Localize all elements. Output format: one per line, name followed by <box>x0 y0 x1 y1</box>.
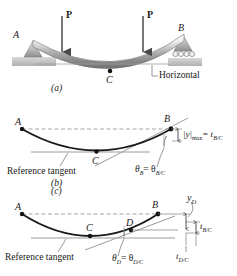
label-point-b-panel-a: B <box>178 22 184 33</box>
tdc-subscript: D/C <box>179 257 189 263</box>
ymax-eq-subscript: B/C <box>213 135 222 141</box>
ymax-subscript: max <box>192 135 202 141</box>
theta-b-equals: = θ <box>143 164 155 174</box>
label-load-p-left: P <box>66 9 72 20</box>
elastic-curve-b <box>22 129 171 151</box>
label-yd: yD <box>187 192 196 205</box>
label-horizontal: Horizontal <box>159 70 200 80</box>
yd-subscript: D <box>191 198 196 205</box>
point-c-marker-b <box>94 149 98 153</box>
roller-wheels <box>173 51 195 56</box>
label-point-b-panel-c: B <box>152 199 158 210</box>
reference-tangent-leader-c <box>58 239 66 252</box>
theta-d-equals: = θ <box>121 253 133 263</box>
panel-a-graphic <box>12 16 202 76</box>
caption-panel-c: (c) <box>51 186 62 196</box>
point-a-marker-c <box>20 212 24 216</box>
label-point-a-panel-a: A <box>13 29 19 40</box>
point-c-marker-a <box>108 69 113 74</box>
label-load-p-right: P <box>147 9 153 20</box>
label-tbc: tB/C <box>200 221 212 233</box>
panel-b-graphic <box>20 118 188 167</box>
ymax-symbol: |y| <box>183 129 192 139</box>
label-point-c-panel-a: C <box>106 74 113 85</box>
label-point-b-panel-b: B <box>164 113 170 124</box>
tbc-subscript: B/C <box>203 227 212 233</box>
label-reference-tangent-b: Reference tangent <box>7 166 76 176</box>
label-theta-b-equation: θB= θB/C <box>135 164 165 176</box>
label-point-c-panel-b: C <box>92 155 99 166</box>
label-theta-d-equation: θD= θD/C <box>112 253 143 265</box>
point-c-marker-c <box>88 234 92 238</box>
ymax-equals: = t <box>202 129 213 139</box>
theta-b-eq-subscript: B/C <box>156 170 165 176</box>
horizontal-leader <box>152 65 158 76</box>
reference-tangent-leader-b <box>60 153 68 166</box>
theta-d-eq-subscript: D/C <box>133 259 143 265</box>
label-point-a-panel-c: A <box>15 201 21 212</box>
label-point-c-panel-c: C <box>86 222 93 233</box>
label-tdc: tD/C <box>176 251 189 263</box>
label-point-a-panel-b: A <box>15 116 21 127</box>
caption-panel-a: (a) <box>51 83 62 93</box>
ground-right <box>168 58 202 66</box>
panel-c-graphic <box>20 202 200 256</box>
label-ymax-equation: |y|max= tB/C <box>183 129 222 141</box>
label-reference-tangent-c: Reference tangent <box>5 252 74 262</box>
ground-left <box>12 57 56 66</box>
label-point-d-panel-c: D <box>126 217 133 228</box>
point-a-marker-b <box>20 127 24 131</box>
